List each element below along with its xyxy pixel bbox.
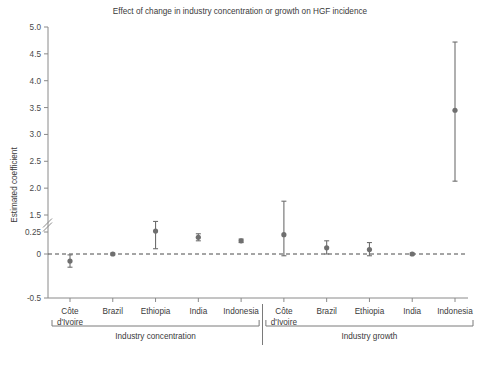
y-tick-label: 2.0 [30, 184, 42, 193]
x-tick-label: India [189, 307, 207, 316]
chart-figure: Effect of change in industry concentrati… [0, 0, 481, 372]
data-point[interactable] [239, 238, 244, 243]
y-tick-label: 2.5 [30, 157, 42, 166]
data-point[interactable] [281, 232, 286, 237]
x-axis: Côted'IvoireBrazilEthiopiaIndiaIndonesia… [48, 298, 473, 345]
x-tick-label: Côted'Ivoire [57, 307, 84, 327]
y-tick-label: 1.5 [30, 211, 42, 220]
x-tick-label: Indonesia [223, 307, 259, 316]
y-tick-label: 4.5 [30, 50, 42, 59]
y-tick-label: -0.5 [27, 294, 42, 303]
data-point[interactable] [324, 245, 329, 250]
x-tick-label: Brazil [103, 307, 124, 316]
data-point[interactable] [452, 108, 457, 113]
group-label: Industry concentration [115, 332, 196, 341]
x-tick-label: Côted'Ivoire [271, 307, 298, 327]
x-tick-label: India [403, 307, 421, 316]
x-tick-label: Ethiopia [355, 307, 385, 316]
y-axis-title: Estimated coefficient [10, 147, 19, 223]
data-point[interactable] [410, 251, 415, 256]
y-tick-label: 4.0 [30, 77, 42, 86]
estimated-coefficient-chart: Effect of change in industry concentrati… [0, 0, 481, 372]
plot-area [48, 42, 468, 267]
data-point[interactable] [196, 235, 201, 240]
data-point[interactable] [67, 258, 72, 263]
y-tick-label: 0.25 [25, 228, 41, 237]
x-tick-label: Brazil [316, 307, 337, 316]
x-tick-label: Ethiopia [141, 307, 171, 316]
y-tick-label: 5.0 [30, 23, 42, 32]
y-axis: 5.04.54.03.53.02.52.01.50.250-0.5 [25, 23, 52, 303]
data-point[interactable] [153, 229, 158, 234]
data-point[interactable] [367, 247, 372, 252]
group-label: Industry growth [341, 332, 397, 341]
y-tick-label: 3.0 [30, 130, 42, 139]
y-tick-label: 0 [36, 250, 41, 259]
y-tick-label: 3.5 [30, 104, 42, 113]
chart-title: Effect of change in industry concentrati… [113, 7, 368, 16]
data-point[interactable] [110, 251, 115, 256]
x-tick-label: Indonesia [437, 307, 473, 316]
